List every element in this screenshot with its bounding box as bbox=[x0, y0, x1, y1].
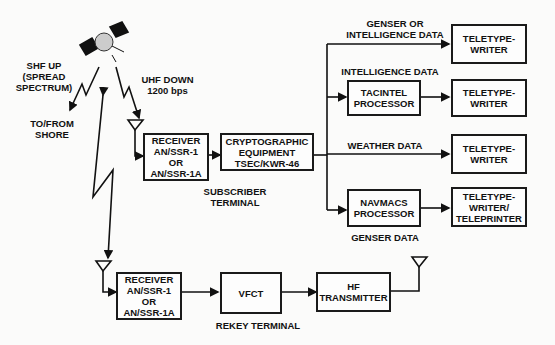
weather-data-label: WEATHER DATA bbox=[340, 140, 430, 151]
satellite-icon bbox=[80, 22, 128, 62]
hf-transmitter-box: HF TRANSMITTER bbox=[316, 272, 391, 312]
subscriber-receiver-box: RECEIVER AN/SSR-1 OR AN/SSR-1A bbox=[143, 133, 209, 181]
teletypewriter-box-2: TELETYPE- WRITER bbox=[451, 79, 527, 117]
genser-data-label: GENSER DATA bbox=[345, 232, 425, 243]
uhf-downlink-label: UHF DOWN 1200 bps bbox=[130, 74, 205, 96]
navmacs-processor-box: NAVMACS PROCESSOR bbox=[347, 189, 421, 227]
teletypewriter-teleprinter-box: TELETYPE- WRITER/ TELEPRINTER bbox=[451, 187, 527, 227]
rekey-receiver-box: RECEIVER AN/SSR-1 OR AN/SSR-1A bbox=[116, 272, 182, 320]
rekey-terminal-label: REKEY TERMINAL bbox=[208, 320, 308, 331]
shf-uplink-label: SHF UP (SPREAD SPECTRUM) bbox=[4, 60, 84, 93]
teletypewriter-box-3: TELETYPE- WRITER bbox=[451, 134, 527, 174]
subscriber-terminal-label: SUBSCRIBER TERMINAL bbox=[190, 186, 280, 208]
genser-intel-data-label: GENSER OR INTELLIGENCE DATA bbox=[330, 18, 460, 40]
crypto-equipment-box: CRYPTOGRAPHIC EQUIPMENT TSEC/KWR-46 bbox=[220, 133, 314, 171]
tacintel-processor-box: TACINTEL PROCESSOR bbox=[347, 80, 421, 116]
intel-data-label: INTELLIGENCE DATA bbox=[335, 66, 445, 77]
shore-label: TO/FROM SHORE bbox=[22, 118, 82, 140]
diagram-canvas: SHF UP (SPREAD SPECTRUM) UHF DOWN 1200 b… bbox=[0, 0, 555, 345]
vfct-box: VFCT bbox=[220, 272, 282, 314]
teletypewriter-box-1: TELETYPE- WRITER bbox=[451, 24, 527, 64]
